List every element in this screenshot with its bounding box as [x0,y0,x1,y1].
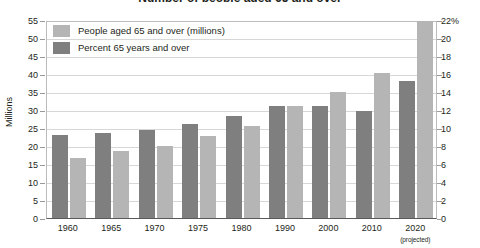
bar-percent-1965 [95,133,111,219]
bar-millions-1980 [244,126,260,218]
legend-label-millions: People aged 65 and over (millions) [78,25,225,36]
right-axis-tick-mark [437,129,442,130]
legend-item-percent: Percent 65 years and over [53,39,225,56]
left-axis-tick-mark [40,201,45,202]
bar-millions-1990 [287,106,303,218]
bar-millions-2010 [374,73,390,218]
right-axis-tick-label: 8 [441,142,475,152]
right-axis-tick-label: 10 [441,124,475,134]
left-axis-tick-mark [40,219,45,220]
chart-legend: People aged 65 and over (millions) Perce… [53,22,225,56]
left-axis-tick-label: 40 [8,70,38,80]
left-axis-tick-mark [40,147,45,148]
left-axis-tick-label: 45 [8,52,38,62]
chart-title: Number of people aged 65 and over [0,0,480,2]
bar-percent-1975 [182,124,198,219]
bar-percent-1960 [52,135,68,218]
x-axis-tick-note: (projected) [385,234,445,245]
bar-percent-1980 [226,116,242,218]
right-axis-tick-mark [437,219,442,220]
left-axis-tick-label: 10 [8,178,38,188]
left-axis-tick-mark [40,75,45,76]
left-axis-tick-mark [40,93,45,94]
bar-percent-1990 [269,106,285,219]
bar-millions-1960 [70,158,86,218]
bar-millions-1970 [157,146,173,218]
right-axis-tick-label: 12 [441,106,475,116]
legend-swatch-millions-icon [53,25,70,37]
right-axis-tick-mark [437,183,442,184]
left-axis-tick-mark [40,165,45,166]
bar-millions-1975 [200,136,216,218]
left-axis-tick-label: 0 [8,214,38,224]
right-axis-tick-mark [437,201,442,202]
right-axis-tick-mark [437,93,442,94]
right-axis-tick-mark [437,57,442,58]
right-axis-tick-mark [437,147,442,148]
left-axis-tick-label: 5 [8,196,38,206]
right-axis-tick-mark [437,39,442,40]
right-axis-tick-label: 0 [441,214,475,224]
left-axis-tick-label: 55 [8,16,38,26]
left-axis-tick-label: 50 [8,34,38,44]
right-axis-tick-mark [437,75,442,76]
bar-millions-1965 [113,151,129,218]
left-axis-tick-mark [40,183,45,184]
chart-container: Number of people aged 65 and over Millio… [0,0,480,248]
left-axis-tick-label: 30 [8,106,38,116]
right-axis-tick-mark [437,111,442,112]
left-axis-tick-label: 35 [8,88,38,98]
bar-millions-2020 [417,21,433,218]
right-axis-tick-mark [437,165,442,166]
bar-percent-1970 [139,130,155,218]
bar-percent-2010 [356,111,372,218]
right-axis-tick-label: 6 [441,160,475,170]
legend-label-percent: Percent 65 years and over [78,42,189,53]
right-axis-tick-label: 2 [441,196,475,206]
legend-item-millions: People aged 65 and over (millions) [53,22,225,39]
right-axis-tick-label: 16 [441,70,475,80]
left-axis-tick-mark [40,57,45,58]
left-axis-tick-label: 25 [8,124,38,134]
right-axis-tick-label: 14 [441,88,475,98]
x-axis-tick-year: 2020 [385,223,445,234]
gridline [47,57,436,58]
right-axis-tick-label: 20 [441,34,475,44]
right-axis-tick-mark [437,21,442,22]
left-axis-tick-label: 15 [8,160,38,170]
bar-percent-2000 [312,106,328,218]
right-axis-tick-label: 22% [441,16,475,26]
left-axis-tick-mark [40,129,45,130]
left-axis-tick-mark [40,111,45,112]
left-axis-tick-mark [40,39,45,40]
bar-percent-2020 [399,81,415,218]
left-axis-tick-mark [40,21,45,22]
bar-millions-2000 [330,92,346,218]
legend-swatch-percent-icon [53,42,70,54]
right-axis-tick-label: 18 [441,52,475,62]
left-axis-tick-label: 20 [8,142,38,152]
right-axis-tick-label: 4 [441,178,475,188]
x-axis-tick-2020: 2020(projected) [385,223,445,245]
